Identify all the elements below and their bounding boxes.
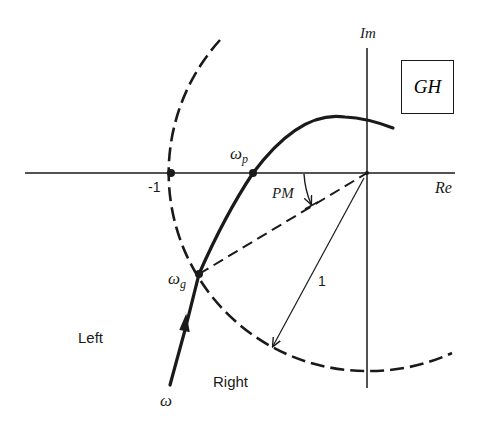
real-axis-label: Re [435, 180, 452, 196]
region-left-label: Left [78, 330, 103, 345]
origin-point [365, 171, 369, 175]
region-right-label: Right [213, 374, 248, 389]
phase-crossover-point [249, 169, 257, 177]
imag-axis-label: Im [360, 26, 376, 41]
transfer-function-box: GH [401, 60, 454, 114]
transfer-function-label: GH [414, 76, 441, 98]
nyquist-curve [170, 116, 393, 385]
phase-margin-tick [305, 202, 318, 209]
unit-radius-label: 1 [318, 274, 326, 288]
phase-margin-label: PM [272, 186, 294, 201]
minus-one-point [167, 169, 175, 177]
gain-crossover-point [195, 270, 203, 278]
gain-crossover-label: ωg [168, 270, 186, 290]
phase-crossover-label: ωp [230, 145, 248, 165]
phase-margin-arrow [304, 174, 311, 204]
frequency-label: ω [160, 392, 172, 409]
minus-one-label: -1 [148, 180, 160, 194]
